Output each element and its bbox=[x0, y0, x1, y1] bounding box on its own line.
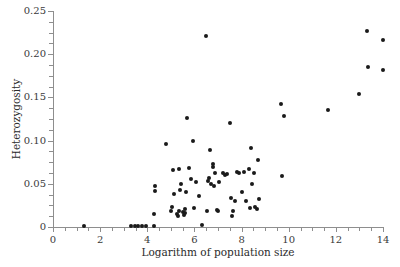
data-point bbox=[357, 92, 361, 96]
y-axis-minor-tick bbox=[49, 43, 53, 44]
data-point bbox=[256, 158, 260, 162]
x-axis-title: Logarithm of population size bbox=[53, 246, 383, 258]
data-point bbox=[257, 197, 261, 201]
data-point bbox=[231, 209, 235, 213]
data-point bbox=[225, 172, 229, 176]
x-axis-major-tick bbox=[100, 227, 101, 232]
data-point bbox=[247, 167, 251, 171]
x-axis-minor-tick bbox=[253, 227, 254, 231]
data-point bbox=[164, 142, 168, 146]
x-axis-minor-tick bbox=[112, 227, 113, 231]
y-axis-minor-tick bbox=[49, 108, 53, 109]
y-axis-tick-label: 0.10 bbox=[24, 136, 46, 146]
data-point bbox=[228, 121, 232, 125]
data-point bbox=[381, 38, 385, 42]
x-axis-minor-tick bbox=[159, 227, 160, 231]
x-axis-tick-label: 10 bbox=[274, 235, 304, 245]
y-axis-tick-label: 0 bbox=[40, 222, 46, 232]
data-point bbox=[177, 167, 181, 171]
data-point bbox=[171, 168, 175, 172]
x-axis-tick-label: 12 bbox=[321, 235, 351, 245]
x-axis-major-tick bbox=[336, 227, 337, 232]
y-axis-major-tick bbox=[48, 54, 53, 55]
x-axis-major-tick bbox=[289, 227, 290, 232]
data-point bbox=[183, 211, 187, 215]
data-point bbox=[216, 209, 220, 213]
data-point bbox=[200, 223, 204, 227]
x-axis-minor-tick bbox=[301, 227, 302, 231]
data-point bbox=[365, 29, 369, 33]
x-axis-minor-tick bbox=[88, 227, 89, 231]
data-point bbox=[184, 190, 188, 194]
data-point bbox=[153, 189, 157, 193]
data-point bbox=[178, 188, 182, 192]
data-point bbox=[233, 199, 237, 203]
y-axis-title: Heterozygosity bbox=[9, 11, 23, 227]
data-point bbox=[212, 184, 216, 188]
y-axis-major-tick bbox=[48, 141, 53, 142]
x-axis-major-tick bbox=[147, 227, 148, 232]
x-axis-minor-tick bbox=[206, 227, 207, 231]
data-point bbox=[207, 176, 211, 180]
data-point bbox=[197, 194, 201, 198]
y-axis-minor-tick bbox=[49, 65, 53, 66]
x-axis-minor-tick bbox=[277, 227, 278, 231]
y-axis-minor-tick bbox=[49, 195, 53, 196]
x-axis-major-tick bbox=[53, 227, 54, 232]
x-axis-minor-tick bbox=[124, 227, 125, 231]
y-axis-tick-label: 0.25 bbox=[24, 6, 46, 16]
data-point bbox=[189, 177, 193, 181]
data-point bbox=[326, 108, 330, 112]
y-axis-minor-tick bbox=[49, 151, 53, 152]
scatter-plot-figure: 00.050.100.150.200.25 02468101214 Hetero… bbox=[0, 0, 400, 267]
data-point bbox=[249, 146, 253, 150]
x-axis-minor-tick bbox=[371, 227, 372, 231]
data-point bbox=[205, 209, 209, 213]
x-axis-minor-tick bbox=[171, 227, 172, 231]
x-axis-minor-tick bbox=[359, 227, 360, 231]
x-axis-tick-label: 8 bbox=[227, 235, 257, 245]
data-point bbox=[153, 184, 157, 188]
y-axis-major-tick bbox=[48, 97, 53, 98]
data-point bbox=[250, 182, 254, 186]
x-axis-minor-tick bbox=[312, 227, 313, 231]
data-point bbox=[192, 206, 196, 210]
x-axis-minor-tick bbox=[265, 227, 266, 231]
x-axis-minor-tick bbox=[218, 227, 219, 231]
y-axis-minor-tick bbox=[49, 162, 53, 163]
y-axis-minor-tick bbox=[49, 216, 53, 217]
x-axis-minor-tick bbox=[230, 227, 231, 231]
data-point bbox=[242, 170, 246, 174]
data-point bbox=[185, 116, 189, 120]
data-point bbox=[230, 214, 234, 218]
x-axis-tick-label: 4 bbox=[132, 235, 162, 245]
data-point bbox=[208, 148, 212, 152]
y-axis-minor-tick bbox=[49, 205, 53, 206]
y-axis-major-tick bbox=[48, 11, 53, 12]
data-point bbox=[170, 205, 174, 209]
data-point bbox=[213, 171, 217, 175]
y-axis-tick-label: 0.20 bbox=[24, 49, 46, 59]
x-axis-minor-tick bbox=[65, 227, 66, 231]
x-axis-tick-label: 14 bbox=[368, 235, 398, 245]
y-axis-minor-tick bbox=[49, 87, 53, 88]
data-point bbox=[381, 68, 385, 72]
x-axis-tick-label: 2 bbox=[85, 235, 115, 245]
x-axis-major-tick bbox=[194, 227, 195, 232]
data-point bbox=[282, 114, 286, 118]
x-axis-major-tick bbox=[242, 227, 243, 232]
y-axis-minor-tick bbox=[49, 76, 53, 77]
x-axis-tick-label: 0 bbox=[38, 235, 68, 245]
data-point bbox=[255, 207, 259, 211]
y-axis-minor-tick bbox=[49, 33, 53, 34]
y-axis-line bbox=[53, 11, 54, 227]
data-point bbox=[280, 174, 284, 178]
data-point bbox=[279, 102, 283, 106]
x-axis-minor-tick bbox=[348, 227, 349, 231]
data-point bbox=[177, 209, 181, 213]
y-axis-minor-tick bbox=[49, 22, 53, 23]
data-point bbox=[187, 166, 191, 170]
data-point bbox=[237, 171, 241, 175]
data-point bbox=[248, 206, 252, 210]
data-point bbox=[179, 182, 183, 186]
